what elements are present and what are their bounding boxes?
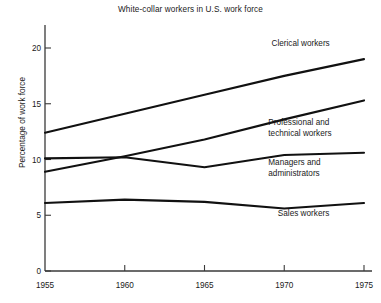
plot-area: 05101520 19551960196519701975 Clerical w… xyxy=(0,0,381,303)
x-tick-label-1960: 1960 xyxy=(116,281,135,290)
y-tick-label-0: 0 xyxy=(36,267,41,276)
x-tick-label-1970: 1970 xyxy=(275,281,294,290)
y-tick-label-5: 5 xyxy=(36,211,41,220)
series-line-sales-workers xyxy=(45,200,364,209)
x-tick-label-1975: 1975 xyxy=(355,281,374,290)
series-labels: Clerical workersProfessional andtechnica… xyxy=(268,39,331,219)
series-label-managers-and-administrators: administrators xyxy=(268,169,319,178)
chart-figure: White-collar workers in U.S. work force … xyxy=(0,0,381,303)
series-label-managers-and-administrators: Managers and xyxy=(268,158,321,167)
y-tick-label-15: 15 xyxy=(32,100,42,109)
series-label-professional-and-technical-workers: Professional and xyxy=(268,118,329,127)
x-axis-ticks: 19551960196519701975 xyxy=(36,265,374,290)
x-tick-label-1955: 1955 xyxy=(36,281,55,290)
series-label-professional-and-technical-workers: technical workers xyxy=(268,129,331,138)
y-tick-label-20: 20 xyxy=(32,44,42,53)
series-label-sales-workers: Sales workers xyxy=(278,209,329,218)
x-tick-label-1965: 1965 xyxy=(195,281,214,290)
y-axis-ticks: 05101520 xyxy=(32,44,51,276)
y-tick-label-10: 10 xyxy=(32,156,42,165)
series-label-clerical-workers: Clerical workers xyxy=(271,39,329,48)
